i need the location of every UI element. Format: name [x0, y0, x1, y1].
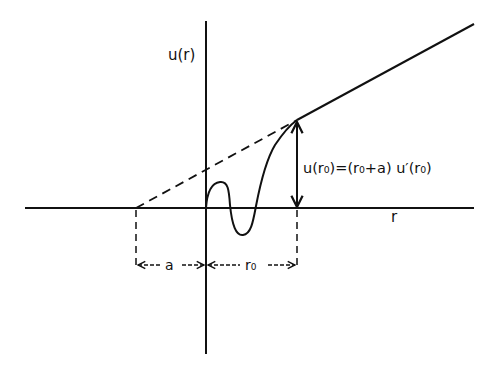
a-label: a	[165, 257, 174, 273]
y-axis-label: u(r)	[168, 46, 195, 64]
asymptote-line	[297, 24, 474, 120]
dashed-extrapolation-line	[136, 120, 297, 208]
x-axis-label: r	[391, 208, 398, 226]
equation-label: u(r₀)=(r₀+a) u′(r₀)	[303, 160, 432, 176]
r0-label: r₀	[245, 257, 257, 273]
scattering-length-diagram: u(r) r u(r₀)=(r₀+a) u′(r₀) a r₀	[0, 0, 499, 374]
wave-function-curve	[206, 120, 297, 235]
